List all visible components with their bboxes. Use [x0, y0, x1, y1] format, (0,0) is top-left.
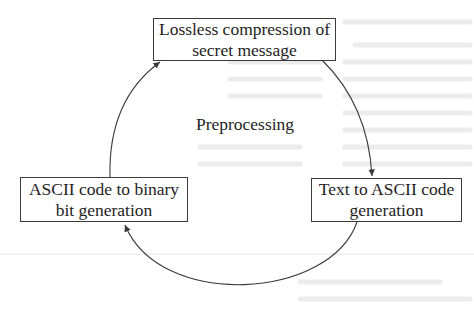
- node-label-line: ASCII code to binary: [29, 179, 179, 200]
- node-label-line: generation: [319, 200, 454, 221]
- arrow-compression-to-text-ascii: [322, 60, 372, 176]
- arrow-binary-to-compression: [110, 62, 160, 177]
- node-label-line: Lossless compression of: [159, 19, 330, 40]
- node-text-to-ascii: Text to ASCII code generation: [311, 178, 462, 222]
- arrow-text-ascii-to-binary: [125, 222, 357, 285]
- node-label-line: bit generation: [29, 200, 179, 221]
- node-lossless-compression: Lossless compression of secret message: [153, 18, 336, 61]
- node-ascii-to-binary: ASCII code to binary bit generation: [20, 177, 188, 222]
- center-label-preprocessing: Preprocessing: [180, 114, 310, 135]
- node-label-line: Text to ASCII code: [319, 179, 454, 200]
- node-label-line: secret message: [159, 40, 330, 61]
